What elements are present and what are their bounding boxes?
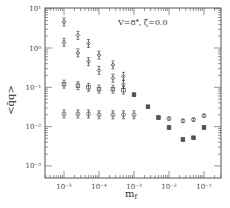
data-point — [111, 74, 115, 82]
data-point — [76, 31, 80, 39]
data-point — [192, 136, 196, 140]
data-point — [181, 119, 185, 123]
data-point — [97, 85, 101, 93]
data-point — [122, 86, 126, 94]
data-point — [62, 18, 66, 26]
data-point — [86, 58, 90, 66]
x-tick-label: 10⁻⁵ — [56, 183, 72, 191]
data-point — [167, 117, 171, 121]
data-point — [121, 111, 125, 119]
chart: 10⁻⁵10⁻⁴10⁻³10⁻²10⁻¹10¹10⁰10⁻¹10⁻²10⁻³ V… — [0, 0, 230, 208]
data-point — [202, 114, 206, 118]
data-point — [76, 49, 80, 57]
data-point — [62, 38, 66, 46]
data-point — [132, 111, 136, 119]
data-point — [181, 138, 185, 142]
y-tick-label: 10⁻² — [26, 123, 42, 131]
y-tick-label: 10⁻¹ — [26, 84, 42, 92]
data-point — [111, 61, 115, 69]
data-point — [132, 93, 136, 97]
data-point — [202, 126, 206, 130]
data-point — [146, 105, 150, 109]
tick-labels: 10⁻⁵10⁻⁴10⁻³10⁻²10⁻¹10¹10⁰10⁻¹10⁻²10⁻³ — [26, 5, 212, 191]
x-tick-label: 10⁻² — [161, 183, 177, 191]
data-point — [86, 40, 90, 48]
data-point — [62, 110, 66, 118]
data-point — [111, 111, 115, 119]
data-point — [76, 110, 80, 118]
data-point — [167, 126, 171, 130]
y-tick-label: 10⁰ — [29, 45, 41, 53]
data-point — [191, 118, 195, 122]
data-point — [86, 110, 90, 118]
data-point — [97, 111, 101, 119]
x-tick-label: 10⁻⁴ — [91, 183, 107, 191]
y-axis-label: <q̄q> — [5, 85, 16, 115]
x-tick-label: 10⁻¹ — [196, 183, 212, 191]
data-point — [121, 72, 125, 80]
y-tick-label: 10¹ — [29, 5, 41, 13]
data-points — [62, 18, 206, 141]
data-point — [87, 83, 91, 91]
data-point — [62, 80, 66, 88]
data-point — [97, 66, 101, 74]
data-point — [157, 116, 161, 120]
data-point — [97, 51, 101, 59]
data-point — [111, 85, 115, 93]
y-tick-label: 10⁻³ — [26, 162, 42, 170]
data-point — [76, 82, 80, 90]
annotation: V=8⁴, ζ=0.0 — [117, 18, 168, 27]
